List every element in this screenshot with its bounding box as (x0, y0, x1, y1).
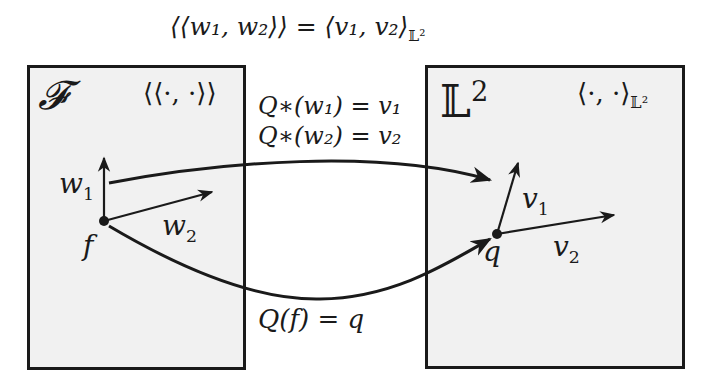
v1-label: v1 (522, 185, 549, 218)
w2-label: w2 (162, 212, 197, 245)
point-f-icon (99, 216, 109, 226)
source-space-symbol: 𝓕 (38, 75, 68, 115)
source-inner-product: ⟨⟨·, ·⟩⟩ (143, 80, 217, 106)
pushforward-arrow-icon (109, 161, 490, 183)
point-f-label: f (83, 232, 93, 260)
target-space-symbol: 𝕃2 (440, 78, 488, 124)
pushforward-w2-label: Q∗(w₂) = v₂ (258, 124, 401, 148)
pushforward-w1-label: Q∗(w₁) = v₁ (258, 94, 401, 118)
target-inner-product: ⟨·, ·⟩𝕃² (577, 80, 648, 111)
v2-label: v2 (553, 233, 580, 266)
point-map-label: Q(f) = q (258, 306, 364, 332)
v1-vector-icon (497, 163, 518, 234)
inner-product-equality: ⟨⟨w₁, w₂⟩⟩ = ⟨v₁, v₂⟩𝕃² (170, 14, 425, 45)
w1-label: w1 (59, 170, 94, 203)
point-q-label: q (483, 238, 501, 266)
